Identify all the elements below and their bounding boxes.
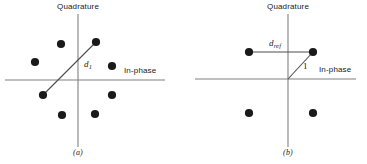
x-axis-label: In-phase xyxy=(124,66,156,75)
unit-radius-segment xyxy=(288,52,313,79)
constellation-point xyxy=(245,48,253,56)
distance-subscript: 1 xyxy=(89,63,92,70)
constellation-point xyxy=(39,91,47,99)
panel-a-caption: (a) xyxy=(58,148,98,157)
distance-symbol: d xyxy=(84,59,89,69)
y-axis-label: Quadrature xyxy=(18,2,138,11)
unit-radius-label: 1 xyxy=(303,61,308,71)
distance-label-dref: dref xyxy=(269,38,281,48)
panel-b-caption: (b) xyxy=(268,148,308,157)
constellation-point xyxy=(31,58,39,66)
distance-symbol: d xyxy=(269,38,274,48)
constellation-point xyxy=(309,109,317,117)
panel-a: Quadrature In-phase d1 (a) xyxy=(0,0,184,164)
constellation-point xyxy=(245,109,253,117)
panel-b: Quadrature In-phase dref 1 (b) xyxy=(183,0,367,164)
constellation-point xyxy=(92,38,100,46)
y-axis-label: Quadrature xyxy=(228,2,348,11)
x-axis-label: In-phase xyxy=(319,65,351,74)
panel-a-plot xyxy=(0,0,184,164)
constellation-point xyxy=(58,111,66,119)
constellation-point xyxy=(309,48,317,56)
constellation-point xyxy=(91,110,99,118)
figure-root: Quadrature In-phase d1 (a) Quadrature In… xyxy=(0,0,367,164)
panel-b-plot xyxy=(183,0,367,164)
constellation-point xyxy=(57,40,65,48)
constellation-point xyxy=(108,62,116,70)
distance-subscript: ref xyxy=(274,42,281,49)
constellation-point xyxy=(108,91,116,99)
distance-label-d1: d1 xyxy=(84,59,92,69)
